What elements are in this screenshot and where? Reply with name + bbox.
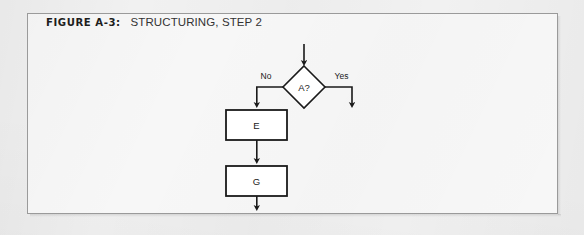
process-node-g: G: [226, 166, 287, 196]
edge-yes: Yes: [325, 71, 352, 105]
decision-node-label: A?: [298, 82, 310, 93]
process-node-e: E: [226, 110, 287, 140]
edge-no: No: [257, 71, 283, 105]
edge-label-no: No: [261, 71, 272, 81]
process-node-label: E: [253, 120, 259, 131]
decision-node-a: A?: [283, 66, 325, 108]
flowchart-diagram: No Yes A? E G: [0, 0, 584, 235]
edge-label-yes: Yes: [335, 71, 349, 81]
process-node-label: G: [253, 176, 260, 187]
